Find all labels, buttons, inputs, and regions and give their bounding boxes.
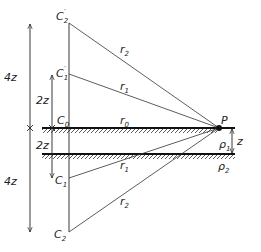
label-4z-upper: 4z bbox=[4, 71, 17, 84]
r1-upper-line bbox=[69, 74, 219, 128]
label-p: P bbox=[221, 114, 228, 127]
label-c1: C1 bbox=[55, 174, 67, 189]
image-charge-diagram: C2′ C1′ C0 C1 C2 P r2 r1 r0 r1 r2 4z 2z … bbox=[0, 0, 261, 252]
label-z: z bbox=[236, 135, 243, 148]
r2-lower-line bbox=[69, 128, 219, 232]
label-r1-lower: r1 bbox=[120, 159, 129, 174]
label-4z-lower: 4z bbox=[4, 175, 17, 188]
label-2z-upper: 2z bbox=[36, 94, 49, 107]
r2-upper-line bbox=[69, 23, 219, 128]
label-c1-prime: C1′ bbox=[56, 65, 68, 82]
label-r2-upper: r2 bbox=[120, 43, 130, 58]
label-r1-upper: r1 bbox=[120, 80, 129, 95]
label-2z-lower: 2z bbox=[36, 139, 49, 152]
label-c0: C0 bbox=[57, 114, 70, 129]
label-c2-prime: C2′ bbox=[56, 8, 69, 25]
label-r0: r0 bbox=[120, 114, 130, 129]
label-rho1: ρ1 bbox=[219, 138, 230, 153]
label-c2: C2 bbox=[54, 228, 67, 243]
label-rho2: ρ2 bbox=[218, 160, 230, 175]
label-r2-lower: r2 bbox=[120, 195, 130, 210]
